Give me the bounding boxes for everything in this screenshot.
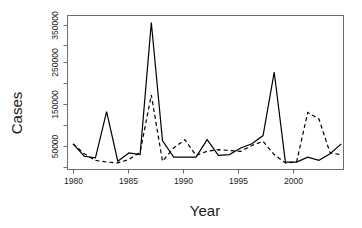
x-axis-title: Year	[190, 202, 220, 219]
x-axis-ticks	[74, 170, 294, 174]
y-tick-label-350000: 350000	[50, 11, 60, 40]
x-tick-label-2000: 2000	[284, 176, 303, 186]
x-tick-label-1995: 1995	[229, 176, 248, 186]
x-tick-label-1990: 1990	[174, 176, 193, 186]
x-tick-label-1985: 1985	[119, 176, 138, 186]
line-chart-plot: Cases Year 350000 250000 150000 50000	[0, 0, 362, 228]
y-axis-ticks	[64, 26, 68, 168]
y-tick-label-150000: 150000	[50, 90, 60, 119]
y-axis-title: Cases	[8, 92, 25, 135]
y-tick-label-250000: 250000	[50, 48, 60, 77]
data-line-dashed	[73, 95, 341, 163]
chart-figure: Cases Year 350000 250000 150000 50000	[0, 0, 362, 228]
plot-frame	[68, 16, 344, 170]
y-tick-label-50000: 50000	[50, 134, 60, 158]
x-tick-label-1980: 1980	[64, 176, 83, 186]
